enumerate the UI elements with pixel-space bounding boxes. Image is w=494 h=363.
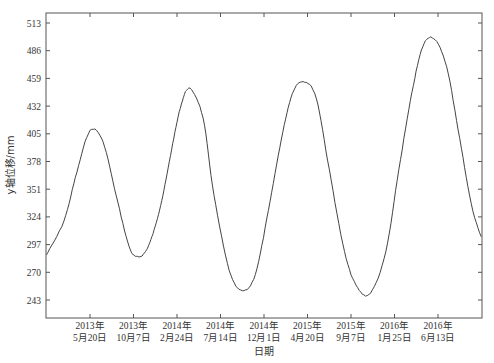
x-tick-label-year: 2015年 bbox=[293, 320, 322, 331]
x-axis-title: 日期 bbox=[254, 346, 274, 357]
y-tick-label: 405 bbox=[27, 129, 42, 139]
x-tick-label-date: 12月1日 bbox=[247, 333, 281, 343]
plot-frame bbox=[46, 13, 482, 318]
x-tick-label-year: 2013年 bbox=[119, 320, 148, 331]
y-tick-label: 432 bbox=[27, 102, 42, 112]
x-tick-label-date: 9月7日 bbox=[336, 333, 366, 343]
x-tick-label-year: 2014年 bbox=[250, 320, 279, 331]
x-tick-label-year: 2016年 bbox=[380, 320, 409, 331]
y-tick-label: 297 bbox=[27, 240, 42, 250]
x-tick-label-year: 2016年 bbox=[424, 320, 453, 331]
x-tick-label-date: 2月24日 bbox=[160, 333, 194, 343]
x-tick-label-year: 2014年 bbox=[163, 320, 192, 331]
y-tick-label: 351 bbox=[27, 185, 42, 195]
x-tick-label-year: 2015年 bbox=[337, 320, 366, 331]
y-tick-label: 270 bbox=[27, 268, 42, 278]
x-tick-label-date: 1月25日 bbox=[377, 333, 411, 343]
x-tick-label-date: 5月20日 bbox=[73, 333, 107, 343]
x-tick-label-year: 2014年 bbox=[206, 320, 235, 331]
x-tick-label-date: 4月20日 bbox=[290, 333, 324, 343]
y-tick-label: 486 bbox=[27, 46, 42, 56]
x-tick-label-year: 2013年 bbox=[76, 320, 105, 331]
y-tick-label: 513 bbox=[27, 19, 42, 29]
x-tick-label-date: 6月13日 bbox=[421, 333, 455, 343]
y-tick-label: 243 bbox=[27, 296, 42, 306]
y-tick-label: 324 bbox=[27, 212, 42, 222]
displacement-line-chart: 243270297324351378405432459486513 2013年5… bbox=[0, 0, 494, 363]
x-tick-label-date: 7月14日 bbox=[203, 333, 237, 343]
y-tick-label: 459 bbox=[27, 74, 42, 84]
y-tick-label: 378 bbox=[27, 157, 42, 167]
x-tick-label-date: 10月7日 bbox=[116, 333, 150, 343]
y-axis-title: y轴位移/mm bbox=[4, 136, 16, 195]
